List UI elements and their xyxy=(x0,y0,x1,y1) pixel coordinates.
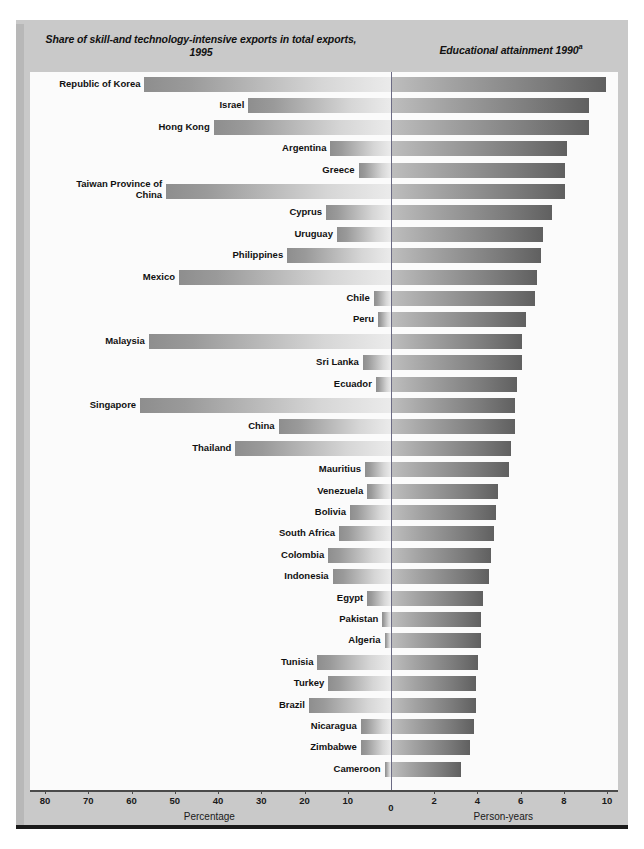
bar-right-educational-attainment xyxy=(392,184,565,199)
axis-tick xyxy=(88,790,89,794)
bar-right-educational-attainment xyxy=(392,312,526,327)
axis-tick xyxy=(521,790,522,794)
bar-row-label: Argentina xyxy=(166,143,326,154)
bar-row: Hong Kong xyxy=(30,117,618,138)
bar-left-exports-share xyxy=(367,484,391,499)
bar-row: China xyxy=(30,416,618,437)
bar-left-exports-share xyxy=(339,526,391,541)
bar-row-label: Cameroon xyxy=(221,764,381,775)
axis-tick xyxy=(607,790,608,794)
bar-row: Israel xyxy=(30,95,618,116)
bar-row: Singapore xyxy=(30,395,618,416)
bar-row-label: China xyxy=(115,421,275,432)
bar-row: Sri Lanka xyxy=(30,352,618,373)
bar-row-label: Zimbabwe xyxy=(197,742,357,753)
bar-row-label: Bolivia xyxy=(186,507,346,518)
bar-row-label: Sri Lanka xyxy=(199,357,359,368)
bar-left-exports-share xyxy=(376,377,391,392)
bar-right-educational-attainment xyxy=(392,505,496,520)
bar-right-educational-attainment xyxy=(392,120,589,135)
bar-left-exports-share xyxy=(317,655,391,670)
axis-tick-label: 10 xyxy=(595,795,619,806)
bar-right-educational-attainment xyxy=(392,355,522,370)
bar-row: Algeria xyxy=(30,630,618,651)
bar-right-educational-attainment xyxy=(392,633,481,648)
bar-row: Malaysia xyxy=(30,331,618,352)
axis-caption-percentage: Percentage xyxy=(139,811,279,822)
bar-left-exports-share xyxy=(248,98,391,113)
bar-row: Bolivia xyxy=(30,502,618,523)
bar-row-label: Mauritius xyxy=(201,464,361,475)
footnote-marker: a xyxy=(579,42,583,51)
bar-row-label: Thailand xyxy=(71,443,231,454)
bar-row-label: Turkey xyxy=(164,678,324,689)
bar-right-educational-attainment xyxy=(392,291,535,306)
bar-right-educational-attainment xyxy=(392,270,537,285)
bar-right-educational-attainment xyxy=(392,441,511,456)
bar-row: Indonesia xyxy=(30,566,618,587)
bar-row: Taiwan Province of China xyxy=(30,181,618,202)
bar-row-label: Peru xyxy=(214,314,374,325)
left-column-title: Share of skill-and technology-intensive … xyxy=(44,33,358,59)
bar-row-label: Israel xyxy=(84,100,244,111)
bar-row-label: Algeria xyxy=(221,635,381,646)
bar-row-label: Brazil xyxy=(145,700,305,711)
bar-left-exports-share xyxy=(149,334,391,349)
bar-right-educational-attainment xyxy=(392,655,478,670)
bar-right-educational-attainment xyxy=(392,227,543,242)
bar-right-educational-attainment xyxy=(392,762,461,777)
bar-row: Uruguay xyxy=(30,224,618,245)
axis-tick xyxy=(434,790,435,794)
bar-row: Argentina xyxy=(30,138,618,159)
bar-left-exports-share xyxy=(382,612,391,627)
bar-row: Tunisia xyxy=(30,652,618,673)
axis-tick-label: 2 xyxy=(422,795,446,806)
bottom-rule xyxy=(16,825,628,829)
axis-tick-label: 30 xyxy=(249,795,273,806)
bar-left-exports-share xyxy=(361,740,391,755)
axis-tick-label: 0 xyxy=(379,802,403,813)
bar-left-exports-share xyxy=(328,548,391,563)
bar-row: Mexico xyxy=(30,267,618,288)
bar-right-educational-attainment xyxy=(392,462,509,477)
bar-left-exports-share xyxy=(359,163,391,178)
bar-row-label: Hong Kong xyxy=(50,122,210,133)
bar-row: Republic of Korea xyxy=(30,74,618,95)
axis-tick xyxy=(477,790,478,794)
bar-row: Ecuador xyxy=(30,374,618,395)
bar-left-exports-share xyxy=(326,205,391,220)
bar-row-label: Indonesia xyxy=(169,571,329,582)
bar-row: Nicaragua xyxy=(30,716,618,737)
bar-row: Thailand xyxy=(30,438,618,459)
bar-right-educational-attainment xyxy=(392,163,565,178)
axis-caption-person-years: Person-years xyxy=(433,811,573,822)
bar-right-educational-attainment xyxy=(392,612,481,627)
bar-row: Philippines xyxy=(30,245,618,266)
bar-left-exports-share xyxy=(365,462,391,477)
bar-row: Chile xyxy=(30,288,618,309)
bar-left-exports-share xyxy=(235,441,391,456)
axis-tick-label: 6 xyxy=(509,795,533,806)
bar-row-label: Chile xyxy=(210,293,370,304)
axis-tick-label: 40 xyxy=(206,795,230,806)
zero-axis-line xyxy=(391,72,392,790)
bar-left-exports-share xyxy=(350,505,391,520)
bar-right-educational-attainment xyxy=(392,719,474,734)
bar-row-label: Ecuador xyxy=(212,379,372,390)
bar-right-educational-attainment xyxy=(392,676,476,691)
bar-right-educational-attainment xyxy=(392,398,515,413)
bar-chart-plot: Republic of KoreaIsraelHong KongArgentin… xyxy=(30,72,618,790)
bar-row: Zimbabwe xyxy=(30,737,618,758)
bar-row: Pakistan xyxy=(30,609,618,630)
bar-right-educational-attainment xyxy=(392,591,483,606)
bar-row-label: Venezuela xyxy=(203,486,363,497)
axis-tick-label: 8 xyxy=(552,795,576,806)
bar-left-exports-share xyxy=(330,141,391,156)
bar-right-educational-attainment xyxy=(392,548,491,563)
right-column-title-text: Educational attainment 1990 xyxy=(439,44,578,56)
axis-tick xyxy=(218,790,219,794)
bar-row: Turkey xyxy=(30,673,618,694)
bar-right-educational-attainment xyxy=(392,205,552,220)
bar-right-educational-attainment xyxy=(392,141,567,156)
axis-tick-label: 50 xyxy=(163,795,187,806)
